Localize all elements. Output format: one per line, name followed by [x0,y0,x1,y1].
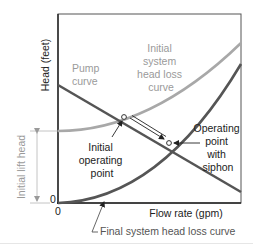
initial-system-label-line: head loss [137,68,182,80]
final-system-curve-label: Final system head loss curve [100,225,236,237]
y-origin-tick-label: 0 [50,193,56,205]
initial-system-label-line: system [143,55,177,67]
siphon-operating-point-marker [167,141,172,146]
siphon-operating-point-label: Operating point with siphon [193,122,242,173]
initial-system-curve-label: Initial system head loss curve [137,42,185,93]
head-flow-diagram: Head (feet) Flow rate (gpm) 0 0 Pump cur… [0,0,253,247]
initial-system-label-line: curve [148,81,174,93]
initial-system-label-line: Initial [147,42,172,54]
initial-lift-head-label: Initial lift head [15,135,27,199]
siphon-label-line: Operating [193,122,239,134]
initial-operating-point-marker [122,115,127,120]
initial-operating-point-label: Initial operating point [79,141,126,179]
siphon-label-line: point [205,135,228,147]
y-axis-label: Head (feet) [39,39,51,92]
pump-curve-label-line: curve [72,75,98,87]
siphon-label-line: siphon [203,161,234,173]
siphon-label-line: with [206,148,226,160]
initial-operating-point-line: operating [79,154,123,166]
pump-curve-label-line: Pump [72,62,100,74]
initial-operating-point-line: Initial [88,141,113,153]
initial-operating-point-line: point [91,167,114,179]
x-origin-tick-label: 0 [55,205,61,217]
shift-arrow-line [132,116,166,137]
pump-curve-label: Pump curve [72,62,102,87]
x-axis-label: Flow rate (gpm) [149,207,223,219]
bottom-divider [0,243,253,244]
